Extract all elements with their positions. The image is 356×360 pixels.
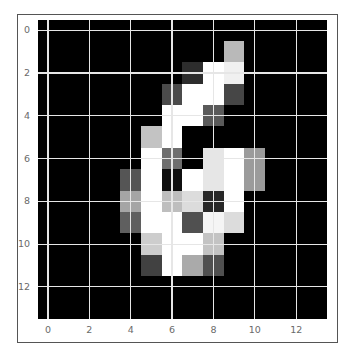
x-tick-label: 2	[86, 325, 92, 335]
pixel-cell	[224, 212, 245, 233]
gridline-horizontal	[38, 72, 328, 73]
y-tick-label: 0	[14, 25, 30, 35]
y-tick-label: 4	[14, 111, 30, 121]
pixel-cell	[307, 41, 328, 62]
pixel-cell	[224, 41, 245, 62]
gridline-vertical	[47, 20, 48, 320]
pixel-cell	[100, 212, 121, 233]
x-tick-label: 0	[45, 325, 51, 335]
pixel-cell	[141, 212, 162, 233]
pixel-cell	[307, 212, 328, 233]
pixel-cell	[307, 298, 328, 319]
pixel-cell	[182, 298, 203, 319]
gridline-horizontal	[38, 286, 328, 287]
pixel-cell	[182, 41, 203, 62]
gridline-vertical	[254, 20, 255, 320]
pixel-cell	[265, 41, 286, 62]
pixel-cell	[141, 255, 162, 276]
pixel-cell	[141, 41, 162, 62]
gridline-horizontal	[38, 201, 328, 202]
pixel-cell	[265, 255, 286, 276]
pixel-cell	[141, 84, 162, 105]
y-tick-label: 2	[14, 68, 30, 78]
pixel-cell	[182, 212, 203, 233]
gridline-vertical	[171, 20, 172, 320]
pixel-cell	[265, 126, 286, 147]
pixel-cell	[307, 169, 328, 190]
gridline-vertical	[89, 20, 90, 320]
pixel-cell	[100, 169, 121, 190]
pixel-cell	[58, 41, 79, 62]
gridline-horizontal	[38, 30, 328, 31]
pixel-cell	[141, 298, 162, 319]
gridline-horizontal	[38, 158, 328, 159]
pixel-cell	[100, 255, 121, 276]
pixel-cell	[307, 255, 328, 276]
y-tick-label: 6	[14, 154, 30, 164]
x-tick-label: 8	[210, 325, 216, 335]
pixel-cell	[265, 298, 286, 319]
pixel-cell	[307, 126, 328, 147]
y-tick-label: 12	[14, 282, 30, 292]
x-tick-label: 4	[128, 325, 134, 335]
pixel-cell	[265, 169, 286, 190]
pixel-cell	[224, 255, 245, 276]
gridline-horizontal	[38, 244, 328, 245]
y-tick-label: 8	[14, 197, 30, 207]
x-tick-label: 10	[249, 325, 261, 335]
pixel-cell	[58, 84, 79, 105]
pixel-cell	[141, 169, 162, 190]
pixel-cell	[182, 169, 203, 190]
pixel-cell	[58, 212, 79, 233]
pixel-cell	[100, 41, 121, 62]
y-tick-label: 10	[14, 239, 30, 249]
pixel-cell	[224, 84, 245, 105]
x-tick-label: 12	[290, 325, 302, 335]
gridline-vertical	[130, 20, 131, 320]
gridline-horizontal	[38, 115, 328, 116]
pixel-cell	[307, 84, 328, 105]
image-plot-area	[38, 20, 328, 320]
pixel-cell	[224, 126, 245, 147]
pixel-cell	[182, 84, 203, 105]
pixel-cell	[224, 169, 245, 190]
gridline-vertical	[213, 20, 214, 320]
pixel-cell	[265, 84, 286, 105]
gridline-vertical	[296, 20, 297, 320]
x-tick-label: 6	[169, 325, 175, 335]
pixel-cell	[182, 126, 203, 147]
pixel-cell	[58, 169, 79, 190]
pixel-cell	[58, 298, 79, 319]
pixel-cell	[265, 212, 286, 233]
pixel-cell	[58, 126, 79, 147]
pixel-cell	[141, 126, 162, 147]
pixel-cell	[224, 298, 245, 319]
pixel-cell	[100, 84, 121, 105]
pixel-cell	[182, 255, 203, 276]
pixel-cell	[58, 255, 79, 276]
pixel-cell	[100, 298, 121, 319]
pixel-cell	[100, 126, 121, 147]
pixel-grid	[38, 20, 328, 320]
